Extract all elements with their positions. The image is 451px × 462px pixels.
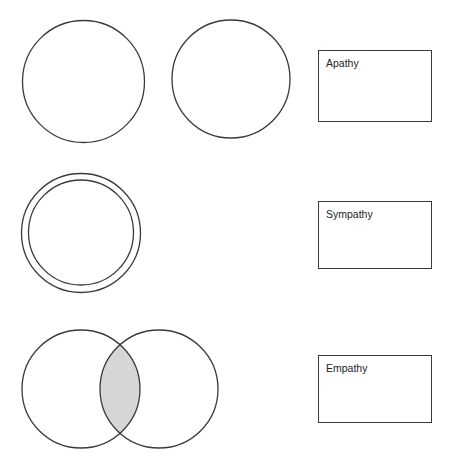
label-box-apathy: Apathy [318, 50, 432, 122]
apathy-circle-left [23, 21, 145, 143]
label-text-apathy: Apathy [326, 57, 359, 70]
sympathy-circle-inner [29, 180, 134, 285]
row-apathy-shapes [23, 20, 291, 143]
row-sympathy-shapes [22, 174, 141, 293]
label-box-empathy: Empathy [318, 355, 432, 423]
apathy-circle-right [172, 20, 290, 138]
label-text-sympathy: Sympathy [326, 208, 373, 221]
label-box-sympathy: Sympathy [318, 201, 432, 269]
label-text-empathy: Empathy [326, 362, 367, 375]
row-empathy-shapes [22, 330, 218, 448]
